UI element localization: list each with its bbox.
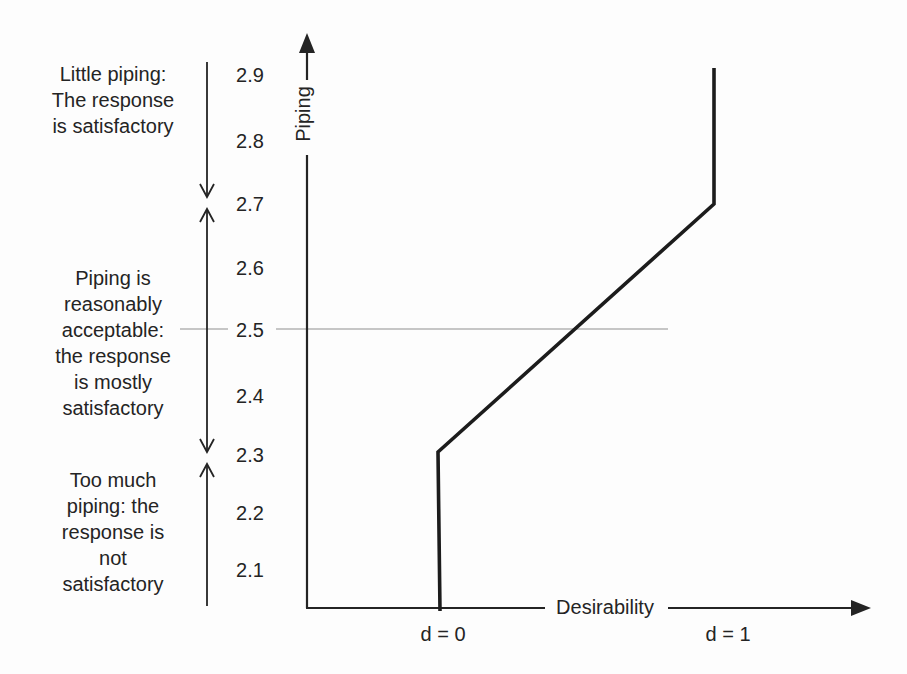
x-axis-arrowhead-icon [851,600,871,616]
y-tick-2-5: 2.5 [220,317,280,343]
y-tick-2-3: 2.3 [220,442,280,468]
y-tick-2-8: 2.8 [220,128,280,154]
desirability-curve [438,68,714,611]
y-tick-2-9: 2.9 [220,62,280,88]
y-tick-2-4: 2.4 [220,383,280,409]
desirability-function-figure: Little piping: The response is satisfact… [0,0,907,674]
y-tick-2-2: 2.2 [220,500,280,526]
x-tick-d0: d = 0 [393,621,493,647]
y-tick-2-1: 2.1 [220,557,280,583]
y-tick-2-6: 2.6 [220,255,280,281]
y-axis-arrowhead-icon [299,33,315,53]
annotation-reasonably-acceptable: Piping is reasonably acceptable: the res… [18,265,208,421]
annotation-little-piping: Little piping: The response is satisfact… [18,61,208,139]
y-axis-label: Piping [290,54,316,174]
x-axis-label: Desirability [535,594,675,620]
annotation-too-much-piping: Too much piping: the response is not sat… [18,467,208,597]
y-tick-2-7: 2.7 [220,191,280,217]
x-tick-d1: d = 1 [678,621,778,647]
